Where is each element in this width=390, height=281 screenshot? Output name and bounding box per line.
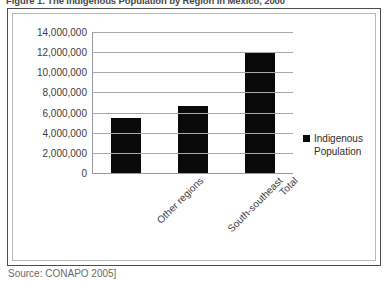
y-axis-tick-label: 12,000,000 (17, 47, 87, 58)
bars-layer (93, 32, 293, 173)
y-axis-tick-label: 14,000,000 (17, 27, 87, 38)
chart-frame: 14,000,00012,000,00010,000,0008,000,0006… (7, 8, 381, 266)
gridline (93, 32, 293, 33)
bar-south-southeast[interactable] (178, 106, 208, 173)
chart-frame-inner-border: 14,000,00012,000,00010,000,0008,000,0006… (12, 13, 376, 261)
x-axis-tick-label: South-southeast (225, 175, 284, 234)
y-axis-tick-label: 10,000,000 (17, 67, 87, 78)
x-axis-labels: Other regionsSouth-southeastTotal (92, 175, 302, 255)
legend-item-indigenous-population: Indigenous Population (303, 132, 379, 158)
gridline (93, 153, 293, 154)
y-axis-tick-label: 8,000,000 (17, 87, 87, 98)
x-axis-tick-label: Other regions (155, 175, 206, 226)
plot-area (92, 32, 293, 174)
y-axis-tick-label: 6,000,000 (17, 107, 87, 118)
legend-swatch-icon (303, 135, 310, 142)
bar-other-regions[interactable] (111, 118, 141, 173)
figure-source-note: Source: CONAPO 2005] (8, 268, 116, 281)
legend-item-label: Indigenous Population (314, 132, 363, 158)
chart-legend: Indigenous Population (303, 132, 379, 158)
chart-canvas: 14,000,00012,000,00010,000,0008,000,0006… (13, 14, 375, 260)
y-axis-labels: 14,000,00012,000,00010,000,0008,000,0006… (13, 32, 87, 173)
gridline (93, 72, 293, 73)
gridline (93, 52, 293, 53)
figure-caption: Figure 1. The Indigenous Population by R… (6, 0, 386, 7)
y-axis-tick-label: 0 (17, 168, 87, 179)
gridline (93, 113, 293, 114)
gridline (93, 92, 293, 93)
y-axis-tick-label: 4,000,000 (17, 127, 87, 138)
gridline (93, 133, 293, 134)
y-axis-tick-label: 2,000,000 (17, 147, 87, 158)
